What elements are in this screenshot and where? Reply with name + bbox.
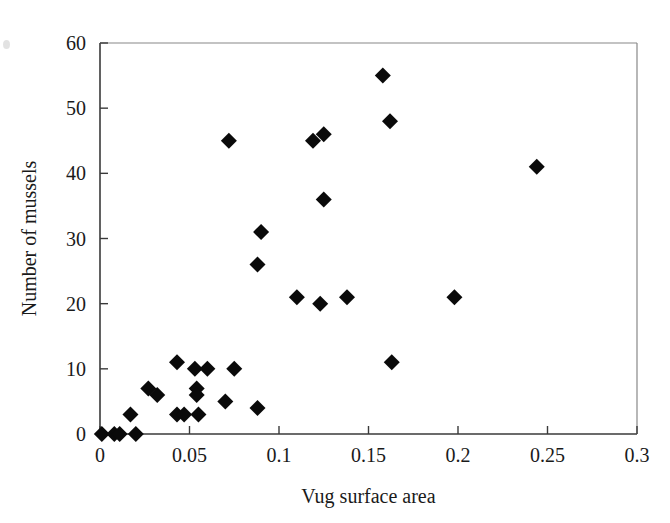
data-point-marker	[339, 289, 355, 305]
data-point-marker	[384, 354, 400, 370]
y-tick-label: 10	[66, 358, 86, 380]
data-point-marker	[375, 68, 391, 84]
y-tick-label: 40	[66, 162, 86, 184]
data-point-marker	[128, 426, 144, 442]
data-point-marker	[217, 393, 233, 409]
data-point-marker	[226, 361, 242, 377]
data-point-marker	[382, 113, 398, 129]
data-markers	[94, 68, 545, 442]
data-point-marker	[289, 289, 305, 305]
y-tick-label: 20	[66, 293, 86, 315]
data-point-marker	[250, 400, 266, 416]
data-point-marker	[250, 257, 266, 273]
y-tick-label: 60	[66, 32, 86, 54]
x-tick-label: 0.15	[351, 444, 386, 466]
x-tick-label: 0.2	[446, 444, 471, 466]
x-tick-label: 0.1	[267, 444, 292, 466]
y-axis-ticks: 0102030405060	[66, 32, 108, 445]
data-point-marker	[199, 361, 215, 377]
data-point-marker	[190, 406, 206, 422]
x-axis-title: Vug surface area	[301, 485, 435, 508]
plot-frame	[100, 43, 637, 434]
x-axis-ticks: 00.050.10.150.20.250.3	[95, 426, 650, 466]
y-tick-label: 0	[76, 423, 86, 445]
x-tick-label: 0.3	[625, 444, 650, 466]
x-tick-label: 0	[95, 444, 105, 466]
x-tick-label: 0.25	[530, 444, 565, 466]
data-point-marker	[122, 406, 138, 422]
y-tick-label: 50	[66, 97, 86, 119]
y-tick-label: 30	[66, 228, 86, 250]
x-tick-label: 0.05	[172, 444, 207, 466]
scatter-plot-figure: 00.050.10.150.20.250.3 0102030405060 Vug…	[0, 0, 670, 523]
data-point-marker	[169, 354, 185, 370]
data-point-marker	[221, 133, 237, 149]
plot-canvas: 00.050.10.150.20.250.3 0102030405060 Vug…	[0, 0, 670, 523]
data-point-marker	[529, 159, 545, 175]
data-point-marker	[446, 289, 462, 305]
data-point-marker	[253, 224, 269, 240]
y-axis-title: Number of mussels	[18, 161, 40, 317]
data-point-marker	[316, 191, 332, 207]
data-point-marker	[312, 296, 328, 312]
